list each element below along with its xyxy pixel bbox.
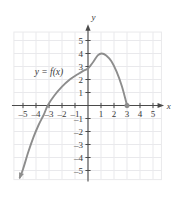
x-tick-label: –5 bbox=[18, 109, 29, 119]
closed-endpoint-dot bbox=[125, 103, 130, 108]
x-tick-label: 1 bbox=[99, 109, 104, 119]
y-tick-label: 1 bbox=[79, 88, 84, 98]
coordinate-plane: –5–4–3–2–112345 –5–4–3–2–112345 x y y = … bbox=[0, 0, 185, 199]
y-tick-label: –1 bbox=[73, 114, 83, 124]
y-tick-label: 5 bbox=[79, 36, 84, 46]
x-tick-label: 4 bbox=[138, 109, 143, 119]
y-axis-label: y bbox=[91, 12, 96, 22]
x-tick-label: 3 bbox=[125, 109, 130, 119]
function-label: y = f(x) bbox=[34, 67, 64, 78]
y-tick-label: 4 bbox=[79, 49, 84, 59]
y-tick-label: –3 bbox=[73, 140, 84, 150]
x-tick-label: –2 bbox=[57, 109, 67, 119]
graph-figure: –5–4–3–2–112345 –5–4–3–2–112345 x y y = … bbox=[0, 0, 185, 199]
x-tick-label: 5 bbox=[151, 109, 156, 119]
y-tick-label: –5 bbox=[73, 166, 84, 176]
endpoint-marker bbox=[125, 103, 130, 108]
y-tick-label: 2 bbox=[79, 75, 84, 85]
x-tick-label: –4 bbox=[31, 109, 42, 119]
y-tick-label: –2 bbox=[73, 127, 83, 137]
x-tick-labels: –5–4–3–2–112345 bbox=[18, 109, 156, 119]
x-tick-label: 2 bbox=[112, 109, 117, 119]
x-axis-label: x bbox=[166, 101, 171, 111]
y-tick-label: –4 bbox=[73, 153, 84, 163]
